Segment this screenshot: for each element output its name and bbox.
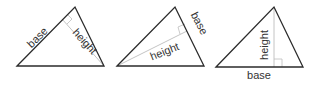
- triangle-2: base height: [117, 7, 210, 66]
- triangles-diagram: base height base height height base: [0, 0, 322, 85]
- base-label-3: base: [247, 69, 271, 81]
- height-label-3: height: [258, 30, 270, 60]
- base-label-2: base: [189, 10, 211, 37]
- right-angle-mark-1: [67, 14, 72, 24]
- right-angle-mark-3: [274, 59, 282, 67]
- height-label-1: height: [70, 26, 99, 56]
- triangle-3: height base: [216, 7, 303, 81]
- triangle-1: base height: [17, 7, 104, 66]
- height-label-2: height: [148, 40, 180, 62]
